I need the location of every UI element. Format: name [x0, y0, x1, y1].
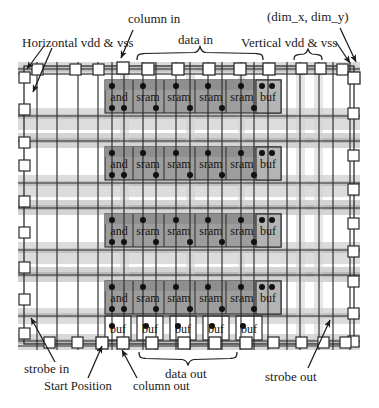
leader-start-position — [88, 346, 102, 378]
label-strobe-out: strobe out — [265, 370, 317, 383]
cell-label-buf: buf — [260, 157, 276, 171]
leader-dim — [340, 28, 356, 62]
cell-label-and: and — [110, 291, 127, 305]
label-vertical-vdd-vss: Vertical vdd & vss — [241, 36, 337, 49]
cell-label-sram: sram — [167, 224, 191, 238]
cell-label-sram: sram — [167, 291, 191, 305]
pad-column-out — [117, 337, 129, 349]
cell-label-buf: buf — [260, 224, 276, 238]
label-column-in: column in — [128, 12, 180, 25]
tile-array-diagram: and sram sram sram sram buf and sram sra… — [0, 0, 379, 408]
cell-label-sram: sram — [136, 90, 160, 104]
io-pads-left — [19, 72, 30, 339]
cell-label-sram: sram — [136, 157, 160, 171]
cell-label-sram: sram — [136, 224, 160, 238]
label-dim-coordinates: (dim_x, dim_y) — [267, 10, 349, 23]
cell-label-sram: sram — [167, 90, 191, 104]
cell-label-buf: buf — [260, 90, 276, 104]
buf-label: buf — [208, 322, 224, 336]
buf-label: buf — [110, 322, 126, 336]
brace-vertical-vdd — [294, 49, 322, 60]
label-horizontal-vdd-vss: Horizontal vdd & vss — [22, 36, 134, 49]
cell-label-sram: sram — [230, 224, 254, 238]
pad-column-in — [117, 62, 129, 74]
cell-label-sram: sram — [199, 157, 223, 171]
cell-label-sram: sram — [230, 157, 254, 171]
cell-label-sram: sram — [230, 291, 254, 305]
cell-label-sram: sram — [230, 90, 254, 104]
cell-label-and: and — [110, 157, 127, 171]
cell-label-and: and — [110, 224, 127, 238]
cell-label-sram: sram — [199, 291, 223, 305]
label-data-in: data in — [178, 33, 213, 46]
label-column-out: column out — [133, 380, 190, 393]
cell-label-and: and — [110, 90, 127, 104]
label-strobe-in: strobe in — [24, 362, 69, 375]
label-start-position: Start Position — [44, 380, 112, 393]
buf-label: buf — [241, 322, 257, 336]
brace-data-out — [139, 352, 237, 365]
cell-label-buf: buf — [260, 291, 276, 305]
cell-label-sram: sram — [199, 90, 223, 104]
leader-column-out — [122, 350, 137, 378]
buf-label: buf — [175, 322, 191, 336]
cell-label-sram: sram — [199, 224, 223, 238]
buf-label: buf — [142, 322, 158, 336]
label-data-out: data out — [165, 367, 207, 380]
cell-label-sram: sram — [167, 157, 191, 171]
cell-label-sram: sram — [136, 291, 160, 305]
figure-canvas: and sram sram sram sram buf and sram sra… — [0, 0, 379, 408]
